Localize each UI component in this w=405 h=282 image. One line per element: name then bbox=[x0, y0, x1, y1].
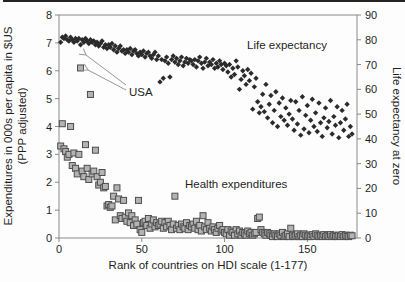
life-expectancy-point bbox=[296, 108, 301, 113]
figure-container: 0123456780102030405060708090050100150 Li… bbox=[0, 0, 405, 282]
health-expenditure-point bbox=[76, 151, 82, 157]
life-expectancy-point bbox=[230, 66, 235, 71]
life-expectancy-point bbox=[293, 99, 298, 104]
life-expectancy-point bbox=[316, 100, 321, 105]
life-expectancy-point bbox=[257, 110, 262, 115]
y-right-tick-label: 0 bbox=[365, 232, 371, 244]
life-expectancy-point bbox=[338, 120, 343, 125]
health-expenditure-point bbox=[87, 91, 93, 97]
life-expectancy-point bbox=[308, 118, 313, 123]
life-expectancy-point bbox=[270, 120, 275, 125]
life-expectancy-point bbox=[334, 104, 339, 109]
life-expectancy-point bbox=[161, 75, 166, 80]
health-expenditure-point bbox=[200, 213, 206, 219]
y-left-tick-label: 7 bbox=[46, 37, 52, 49]
life-expectancy-point bbox=[242, 73, 247, 78]
health-expenditure-point bbox=[99, 169, 105, 175]
life-expectancy-point bbox=[306, 130, 311, 135]
life-expectancy-point bbox=[328, 98, 333, 103]
life-expectancy-point bbox=[298, 132, 303, 137]
life-expectancy-point bbox=[288, 98, 293, 103]
y-axis-left-title-line2: (PPP adjusted) bbox=[16, 87, 28, 164]
life-expectancy-point bbox=[290, 116, 295, 121]
health-expenditure-point bbox=[114, 185, 120, 191]
life-expectancy-point bbox=[305, 103, 310, 108]
life-expectancy-point bbox=[278, 114, 283, 119]
health-expenditure-point bbox=[109, 203, 115, 209]
life-expectancy-series-label: Life expectancy bbox=[247, 39, 327, 51]
life-expectancy-point bbox=[313, 110, 318, 115]
life-expectancy-point bbox=[272, 108, 277, 113]
life-expectancy-point bbox=[321, 115, 326, 120]
life-expectancy-point bbox=[326, 119, 331, 124]
y-right-tick-label: 70 bbox=[365, 59, 377, 71]
top-rule bbox=[3, 0, 405, 2]
life-expectancy-point bbox=[200, 66, 205, 71]
y-axis-left-title-line1: Expenditures in 000s per capita in $US bbox=[2, 26, 14, 225]
life-expectancy-point bbox=[267, 102, 272, 107]
life-expectancy-point bbox=[252, 84, 257, 89]
life-expectancy-point bbox=[237, 87, 242, 92]
y-right-tick-label: 20 bbox=[365, 182, 377, 194]
life-expectancy-point bbox=[348, 124, 353, 129]
y-left-tick-label: 2 bbox=[46, 176, 52, 188]
y-left-tick-label: 4 bbox=[46, 121, 52, 133]
health-expenditure-point bbox=[288, 225, 294, 231]
life-expectancy-point bbox=[286, 111, 291, 116]
life-expectancy-point bbox=[263, 82, 268, 87]
life-expectancy-point bbox=[258, 104, 263, 109]
life-expectancy-point bbox=[318, 120, 323, 125]
life-expectancy-point bbox=[273, 89, 278, 94]
life-expectancy-point bbox=[315, 129, 320, 134]
y-left-tick-label: 0 bbox=[46, 232, 52, 244]
life-expectancy-point bbox=[329, 131, 334, 136]
health-expenditure-point bbox=[139, 229, 145, 235]
y-left-tick-label: 6 bbox=[46, 65, 52, 77]
life-expectancy-point bbox=[248, 71, 253, 76]
life-expectancy-point bbox=[320, 134, 325, 139]
life-expectancy-point bbox=[281, 118, 286, 123]
health-expenditure-point bbox=[78, 65, 84, 71]
life-expectancy-point bbox=[341, 128, 346, 133]
x-axis-title: Rank of countries on HDI scale (1-177) bbox=[109, 259, 308, 271]
life-expectancy-point bbox=[339, 108, 344, 113]
life-expectancy-point bbox=[233, 58, 238, 63]
health-expenditure-point bbox=[68, 124, 74, 130]
life-expectancy-point bbox=[336, 135, 341, 140]
life-expectancy-point bbox=[280, 95, 285, 100]
life-expectancy-point bbox=[344, 102, 349, 107]
life-expectancy-point bbox=[245, 67, 250, 72]
life-expectancy-point bbox=[167, 74, 172, 79]
health-expenditure-point bbox=[135, 197, 141, 203]
life-expectancy-point bbox=[275, 124, 280, 129]
life-expectancy-point bbox=[295, 121, 300, 126]
y-right-tick-label: 10 bbox=[365, 207, 377, 219]
life-expectancy-point bbox=[300, 94, 305, 99]
life-expectancy-point bbox=[238, 77, 243, 82]
usa-arrow-to-square bbox=[88, 70, 126, 90]
life-expectancy-point bbox=[250, 106, 255, 111]
life-expectancy-point bbox=[157, 79, 162, 84]
usa-annotation-label: USA bbox=[129, 86, 153, 98]
life-expectancy-point bbox=[323, 105, 328, 110]
life-expectancy-point bbox=[268, 93, 273, 98]
life-expectancy-point bbox=[291, 128, 296, 133]
health-expenditure-point bbox=[102, 183, 108, 189]
y-left-tick-label: 8 bbox=[46, 9, 52, 21]
y-right-tick-label: 50 bbox=[365, 108, 377, 120]
life-expectancy-point bbox=[247, 78, 252, 83]
x-tick-label: 0 bbox=[56, 243, 62, 255]
health-expenditure-point bbox=[121, 197, 127, 203]
scatter-chart: 0123456780102030405060708090050100150 Li… bbox=[0, 0, 405, 282]
y-right-tick-label: 90 bbox=[365, 9, 377, 21]
life-expectancy-point bbox=[311, 124, 316, 129]
usa-arrow-to-diamond bbox=[86, 55, 126, 85]
x-tick-label: 50 bbox=[136, 243, 148, 255]
health-expenditure-point bbox=[92, 147, 98, 153]
life-expectancy-point bbox=[276, 100, 281, 105]
health-expenditure-point bbox=[59, 121, 65, 127]
life-expectancy-point bbox=[343, 116, 348, 121]
y-axis-right-title: Life expectancy at zero bbox=[391, 67, 403, 185]
life-expectancy-point bbox=[301, 126, 306, 131]
life-expectancy-point bbox=[240, 68, 245, 73]
